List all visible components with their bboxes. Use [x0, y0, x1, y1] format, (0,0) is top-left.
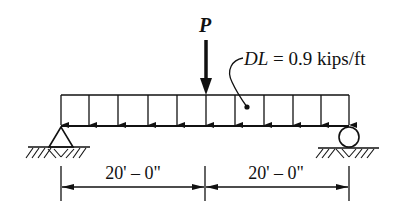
dimensions: 20' – 0" 20' – 0": [61, 163, 349, 201]
dl-label: DL = 0.9 kips/ft: [243, 48, 366, 69]
point-load-label: P: [198, 14, 212, 36]
dim-label-left: 20' – 0": [105, 163, 161, 183]
point-load: P: [198, 14, 212, 95]
pin-support: [26, 127, 90, 158]
roller-support: [316, 127, 379, 158]
dl-annotation: DL = 0.9 kips/ft: [230, 48, 367, 110]
roller-icon: [339, 127, 359, 147]
dim-label-right: 20' – 0": [248, 163, 304, 183]
ground-hatch: [26, 148, 86, 158]
ground-hatch: [316, 149, 374, 158]
load-arrows: [61, 95, 349, 125]
distributed-load: [61, 95, 349, 125]
arrow-down-icon: [200, 78, 212, 95]
leader-dot: [244, 104, 249, 109]
triangle-icon: [49, 127, 73, 147]
beam-diagram: P DL = 0.9 kips/ft: [0, 0, 399, 219]
